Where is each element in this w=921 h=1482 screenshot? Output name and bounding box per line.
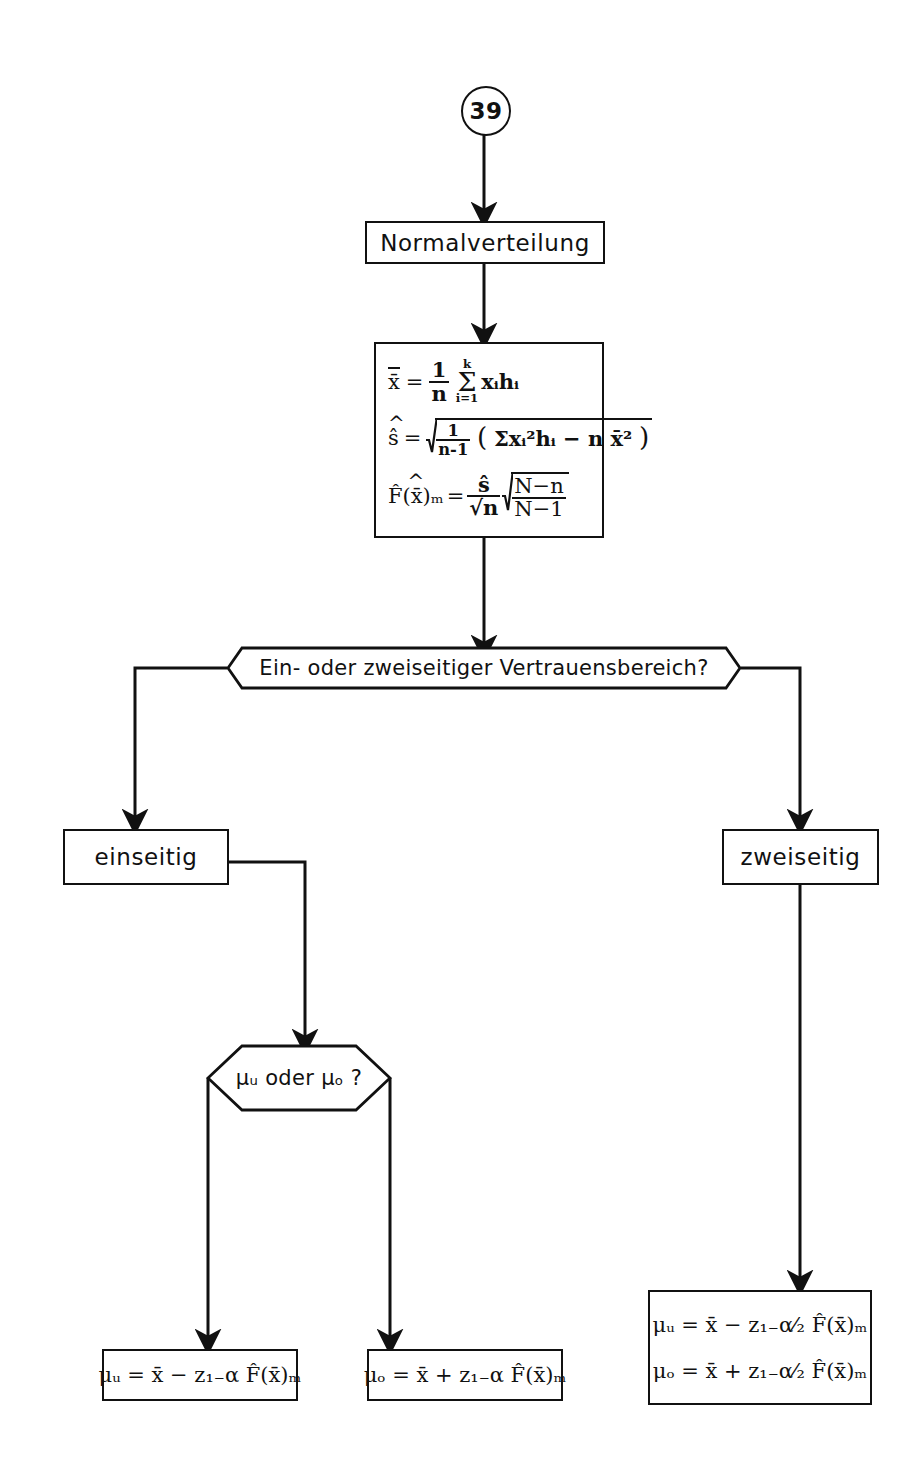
- formula-stddev: ŝ = 1 n-1 ( Σxᵢ²hᵢ − n x̄² ): [388, 418, 590, 459]
- formula-stddev-paren-close: ): [639, 422, 649, 452]
- result-mu-o-two-sided-formula: μₒ = x̄ + z₁₋α⁄₂ F̂(x̄)ₘ: [653, 1359, 868, 1383]
- formula-mean-sum-bottom: i=1: [456, 393, 479, 404]
- formula-mean: x̄ = 1 n k Σ i=1 xᵢhᵢ: [388, 359, 590, 405]
- node-normalverteilung[interactable]: Normalverteilung: [365, 221, 605, 264]
- formula-stddev-paren-open: (: [477, 422, 487, 452]
- node-zweiseitig[interactable]: zweiseitig: [722, 829, 879, 885]
- edge-einseitig-to-decision2: [229, 862, 305, 1042]
- node-result-two-sided[interactable]: μᵤ = x̄ − z₁₋α⁄₂ F̂(x̄)ₘ μₒ = x̄ + z₁₋α⁄…: [648, 1290, 872, 1405]
- node-formulas[interactable]: x̄ = 1 n k Σ i=1 xᵢhᵢ ŝ =: [374, 342, 604, 538]
- formula-mean-sum: k Σ i=1: [456, 359, 479, 404]
- node-decision-mu-label: μᵤ oder μₒ ?: [236, 1066, 362, 1090]
- result-mu-u-one-sided-formula: μᵤ = x̄ − z₁₋α F̂(x̄)ₘ: [99, 1363, 302, 1387]
- formula-stderr-eq: =: [447, 484, 465, 508]
- formula-stderr-root-body: N−n N−1: [511, 472, 569, 522]
- formula-mean-sum-sigma: Σ: [457, 370, 476, 393]
- connector-circle-label: 39: [469, 98, 502, 124]
- radical-icon: [426, 418, 435, 459]
- node-decision-vertrauensbereich[interactable]: Ein- oder zweiseitiger Vertrauensbereich…: [226, 646, 742, 690]
- formula-stddev-eq: =: [404, 426, 422, 450]
- formula-mean-num: 1: [429, 359, 448, 383]
- connector-circle-39: 39: [461, 86, 511, 136]
- formula-stddev-body: 1 n-1 ( Σxᵢ²hᵢ − n x̄² ): [435, 418, 652, 459]
- edge-decision1-to-einseitig: [135, 668, 227, 822]
- formula-stddev-fraction: 1 n-1: [436, 422, 470, 458]
- node-decision-vertrauensbereich-label: Ein- oder zweiseitiger Vertrauensbereich…: [259, 656, 708, 680]
- formula-stddev-den: n-1: [436, 441, 470, 458]
- node-result-mu-o-one-sided[interactable]: μₒ = x̄ + z₁₋α F̂(x̄)ₘ: [367, 1349, 563, 1401]
- node-decision-mu[interactable]: μᵤ oder μₒ ?: [206, 1044, 392, 1112]
- formula-stddev-sqrt: 1 n-1 ( Σxᵢ²hᵢ − n x̄² ): [426, 418, 652, 459]
- formula-stderr-lhs: F̂(x̄)ₘ: [388, 484, 444, 508]
- result-mu-o-one-sided-formula: μₒ = x̄ + z₁₋α F̂(x̄)ₘ: [364, 1363, 567, 1387]
- formula-stderr-root-num: N−n: [512, 476, 566, 500]
- node-einseitig-label: einseitig: [94, 844, 197, 870]
- formula-mean-eq: =: [406, 370, 424, 394]
- formula-mean-term: xᵢhᵢ: [481, 369, 519, 394]
- radical-icon: [502, 472, 511, 522]
- formula-mean-lhs: x̄: [388, 370, 400, 394]
- formula-stderr-num: ŝ: [467, 474, 500, 498]
- edge-decision1-to-zweiseitig: [741, 668, 800, 822]
- node-normalverteilung-label: Normalverteilung: [380, 230, 590, 256]
- node-einseitig[interactable]: einseitig: [63, 829, 229, 885]
- formula-mean-den: n: [429, 383, 448, 405]
- flowchart-canvas: 39 Normalverteilung x̄ = 1 n k Σ i=1 xᵢh…: [0, 0, 921, 1482]
- node-result-mu-u-one-sided[interactable]: μᵤ = x̄ − z₁₋α F̂(x̄)ₘ: [102, 1349, 298, 1401]
- formula-mean-fraction: 1 n: [429, 359, 448, 405]
- result-mu-u-two-sided-formula: μᵤ = x̄ − z₁₋α⁄₂ F̂(x̄)ₘ: [653, 1313, 868, 1337]
- formula-stderr-root-den: N−1: [512, 499, 566, 521]
- node-zweiseitig-label: zweiseitig: [741, 844, 861, 870]
- formula-stddev-num: 1: [436, 422, 470, 441]
- formula-stderr: F̂(x̄)ₘ = ŝ √n N−n N−1: [388, 472, 590, 522]
- formula-stderr-root-fraction: N−n N−1: [512, 476, 566, 522]
- formula-stddev-inner: Σxᵢ²hᵢ − n x̄²: [494, 426, 632, 451]
- formula-stderr-den: √n: [467, 497, 500, 519]
- formula-stddev-lhs: ŝ: [388, 426, 399, 450]
- formula-stderr-fraction: ŝ √n: [467, 474, 500, 520]
- formula-stderr-sqrt: N−n N−1: [502, 472, 568, 522]
